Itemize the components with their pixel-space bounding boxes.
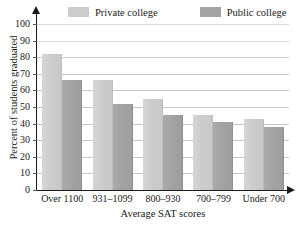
y-axis-tick: [33, 124, 37, 125]
x-axis-tick-label: Under 700: [233, 193, 295, 205]
bar: [193, 115, 213, 190]
y-axis-tick: [33, 57, 37, 58]
x-axis-tick-labels: Over 1100931–1099800–930700–799Under 700: [37, 193, 289, 208]
y-axis-arrow-icon: [32, 6, 40, 14]
bar: [113, 104, 133, 190]
bar: [93, 80, 113, 190]
bar: [62, 80, 82, 190]
legend-swatch-private-college: [68, 7, 89, 17]
legend-item-private-college: Private college: [68, 7, 158, 18]
plot-area: [37, 24, 289, 190]
legend-swatch-public-college: [200, 7, 221, 17]
legend-label-public-college: Public college: [227, 7, 287, 18]
y-axis-tick: [33, 157, 37, 158]
bar: [213, 122, 233, 190]
x-axis-line: [36, 190, 288, 191]
x-axis-title: Average SAT scores: [37, 208, 289, 220]
y-axis-line: [36, 12, 37, 191]
y-axis-tick: [33, 90, 37, 91]
y-axis-tick: [33, 173, 37, 174]
bars-layer: [37, 24, 289, 190]
y-axis-tick: [33, 190, 37, 191]
legend-item-public-college: Public college: [200, 7, 287, 18]
y-axis-title: Percent of students graduated: [8, 13, 19, 183]
bar: [143, 99, 163, 190]
y-axis-tick: [33, 140, 37, 141]
y-axis-tick: [33, 74, 37, 75]
bar: [42, 54, 62, 190]
legend-label-private-college: Private college: [95, 7, 158, 18]
bar: [264, 127, 284, 190]
y-axis-tick: [33, 107, 37, 108]
y-axis-tick: [33, 24, 37, 25]
bar: [244, 119, 264, 190]
bar: [163, 115, 183, 190]
y-axis-tick: [33, 41, 37, 42]
chart-legend: Private college Public college: [62, 4, 298, 20]
bar-chart: Private college Public college 010203040…: [0, 0, 303, 227]
y-axis-tick-label: 0: [2, 185, 30, 195]
